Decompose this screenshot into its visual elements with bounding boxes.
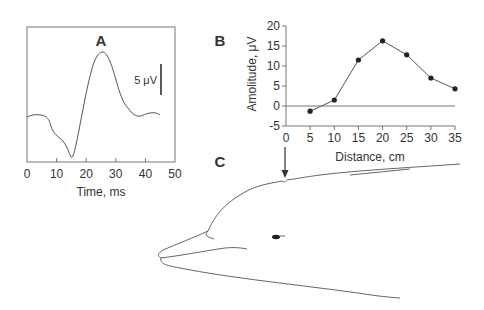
panel-a-x-tick-labels: 0 10 20 30 40 50 [24, 167, 182, 181]
svg-text:5: 5 [307, 131, 314, 145]
svg-text:-5: -5 [269, 119, 280, 133]
svg-text:15: 15 [352, 131, 366, 145]
svg-text:20: 20 [80, 167, 94, 181]
waveform-line [27, 52, 160, 157]
svg-text:10: 10 [267, 59, 281, 73]
svg-text:30: 30 [424, 131, 438, 145]
figure: A 5 μV 0 10 20 30 40 50 Time, ms B Amoli… [0, 0, 484, 310]
panel-b-x-tick-labels: 0 5 10 15 20 25 30 35 [283, 131, 462, 145]
svg-text:10: 10 [328, 131, 342, 145]
panel-b-y-tick-labels: 20 15 10 5 0 -5 [267, 19, 281, 133]
panel-a-x-ticks [57, 158, 146, 162]
panel-b: B Amolitude, μV 20 15 10 5 0 -5 0 5 10 1… [215, 19, 462, 164]
svg-text:0: 0 [24, 167, 31, 181]
dolphin-eye [272, 235, 280, 239]
scale-bar-label: 5 μV [134, 74, 158, 86]
panel-a: A 5 μV 0 10 20 30 40 50 Time, ms [24, 27, 182, 199]
panel-b-label: B [215, 32, 226, 49]
svg-text:0: 0 [283, 131, 290, 145]
panel-c-label: C [215, 153, 226, 170]
svg-text:10: 10 [50, 167, 64, 181]
svg-text:15: 15 [267, 39, 281, 53]
svg-text:20: 20 [267, 19, 281, 33]
svg-text:20: 20 [376, 131, 390, 145]
panel-b-x-ticks [310, 126, 455, 130]
svg-text:35: 35 [448, 131, 462, 145]
panel-b-x-axis-title: Distance, cm [335, 150, 404, 164]
arrow-head-icon [282, 170, 289, 178]
svg-text:25: 25 [400, 131, 414, 145]
svg-text:30: 30 [109, 167, 123, 181]
panel-a-x-axis-title: Time, ms [77, 185, 126, 199]
svg-text:5: 5 [273, 79, 280, 93]
panel-c: C [159, 147, 460, 298]
dolphin-outline [159, 164, 460, 298]
panel-b-y-ticks [282, 26, 286, 126]
panel-b-y-axis-title: Amolitude, μV [245, 37, 259, 112]
svg-text:0: 0 [273, 99, 280, 113]
panel-a-label: A [96, 32, 107, 49]
svg-text:40: 40 [139, 167, 153, 181]
svg-text:50: 50 [168, 167, 182, 181]
